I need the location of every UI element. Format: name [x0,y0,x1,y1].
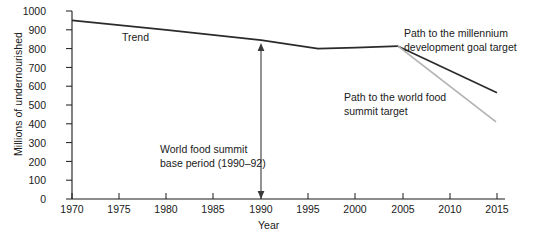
chart-container: Millions of undernourished Year 1000 900… [0,0,538,241]
annotation-wfs-path: Path to the world food summit target [344,91,446,118]
base-period-arrow [258,43,265,199]
annotation-base-period: World food summit base period (1990–92) [160,143,266,170]
annotation-mdg-path: Path to the millennium development goal … [404,27,517,54]
annotation-trend: Trend [122,31,149,45]
series-trend-line [72,20,398,48]
